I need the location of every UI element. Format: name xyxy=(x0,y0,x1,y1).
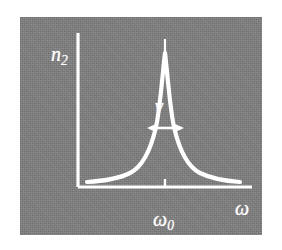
lorentzian-curve xyxy=(87,53,240,182)
x-tick-label-text: ω xyxy=(153,208,167,230)
figure-root: n2 γ ω0 ω xyxy=(0,0,282,250)
y-axis-label-subscript: 2 xyxy=(61,53,68,68)
linewidth-label: γ xyxy=(155,96,163,116)
y-axis-label: n2 xyxy=(51,44,68,68)
x-axis-tick-label-omega0: ω0 xyxy=(153,209,174,233)
x-tick-label-subscript: 0 xyxy=(167,218,174,233)
linewidth-double-arrow xyxy=(147,124,184,132)
x-axis-label: ω xyxy=(235,198,249,218)
plot-panel: n2 γ ω0 ω xyxy=(20,17,262,235)
y-axis-label-text: n xyxy=(51,43,61,65)
